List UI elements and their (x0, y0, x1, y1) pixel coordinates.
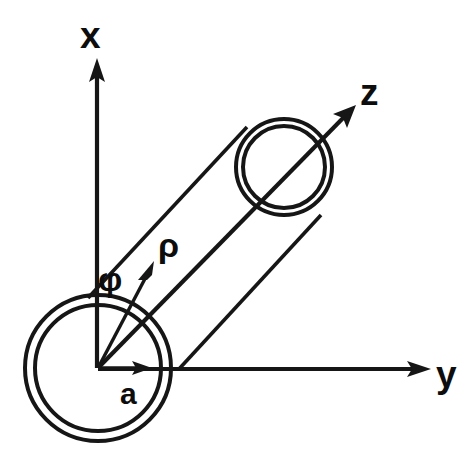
phi-label: φ (98, 260, 122, 298)
a-vector (98, 361, 152, 375)
far-circle-inner (243, 126, 325, 208)
cylinder-side-edges (88, 127, 321, 369)
z-axis (98, 105, 356, 368)
x-axis-label: x (80, 15, 101, 56)
z-axis-label: z (360, 72, 379, 113)
arrow-up-right-icon (138, 261, 154, 280)
rho-label: ρ (158, 226, 179, 264)
figure-canvas: x y z ρ φ a (0, 0, 476, 475)
a-label: a (120, 377, 137, 410)
cylindrical-coordinate-diagram: x y z ρ φ a (0, 0, 476, 475)
y-axis-label: y (436, 354, 457, 395)
cylinder-edge-lower (179, 215, 321, 369)
far-circle-outer (236, 119, 332, 215)
far-circle-face (236, 119, 332, 215)
x-axis (89, 58, 105, 368)
